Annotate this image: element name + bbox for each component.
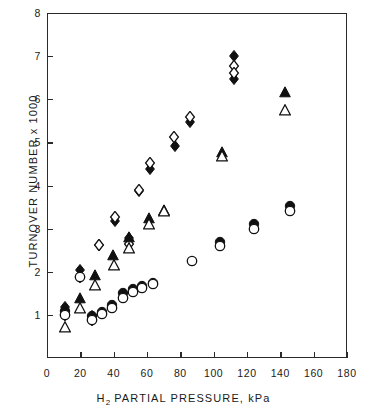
y-axis-title-text: TURNOVER NUMBER x 1000 bbox=[27, 95, 39, 268]
x-tick-label-140: 140 bbox=[271, 367, 290, 379]
x-tick-180 bbox=[347, 352, 348, 358]
caption-fragment bbox=[0, 410, 367, 417]
x-tick-label-160: 160 bbox=[304, 367, 323, 379]
x-tick-label-0: 0 bbox=[44, 367, 50, 379]
plot-border bbox=[47, 13, 347, 358]
x-tick-label-80: 80 bbox=[174, 367, 187, 379]
scatter-chart-figure: 020406080100120140160180 12345678 H2 PAR… bbox=[0, 0, 367, 417]
x-axis-title-text: H2 PARTIAL PRESSURE, kPa bbox=[97, 392, 271, 404]
x-tick-label-60: 60 bbox=[141, 367, 154, 379]
y-axis-title: TURNOVER NUMBER x 1000 bbox=[27, 51, 39, 311]
x-tick-label-20: 20 bbox=[74, 367, 87, 379]
y-tick-label-8: 8 bbox=[21, 7, 41, 19]
x-tick-label-180: 180 bbox=[337, 367, 356, 379]
x-tick-label-40: 40 bbox=[107, 367, 120, 379]
x-axis-title: H2 PARTIAL PRESSURE, kPa bbox=[0, 392, 367, 407]
x-tick-label-100: 100 bbox=[204, 367, 223, 379]
x-tick-label-120: 120 bbox=[237, 367, 256, 379]
